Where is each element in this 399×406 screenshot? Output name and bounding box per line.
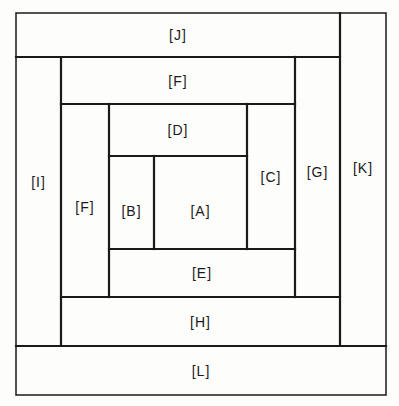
block-f-left-label: [F] [75,199,94,215]
block-g-label: [G] [307,164,329,180]
block-h-label: [H] [190,314,211,330]
block-a-label: [A] [190,203,210,219]
block-d: [D] [109,104,247,156]
block-k-label: [K] [353,160,373,176]
log-cabin-diagram: [J] [K] [I] [F] [G] [F] [D] [C] [B] [A] … [0,0,399,406]
block-j-label: [J] [169,27,187,43]
block-l: [L] [16,346,386,395]
block-l-label: [L] [192,363,211,379]
block-e: [E] [109,249,295,297]
block-c: [C] [247,104,295,249]
block-k: [K] [340,13,386,323]
block-j: [J] [16,13,340,57]
block-f-top: [F] [61,57,295,104]
block-h: [H] [61,297,340,346]
block-f-left: [F] [61,104,109,309]
block-i: [I] [16,57,61,307]
block-e-label: [E] [192,265,212,281]
block-c-label: [C] [261,169,282,185]
block-d-label: [D] [168,122,189,138]
block-g: [G] [295,57,340,287]
block-b-label: [B] [121,203,141,219]
block-i-label: [I] [31,174,46,190]
block-f-top-label: [F] [168,73,187,89]
